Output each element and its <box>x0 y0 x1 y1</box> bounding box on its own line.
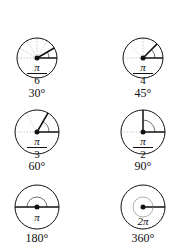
radian-label-pi-4: π 4 <box>133 62 153 85</box>
degree-label-180: 180° <box>17 232 57 244</box>
radian-label-pi-6: π 6 <box>27 62 47 85</box>
radian-label-pi-2: π 2 <box>133 136 153 159</box>
degree-label-360: 360° <box>123 232 163 244</box>
degree-label-45: 45° <box>123 87 163 99</box>
radian-label-2pi: 2π <box>123 215 163 227</box>
degree-label-90: 90° <box>123 160 163 172</box>
radian-label-pi-3: π 3 <box>27 136 47 159</box>
degree-label-30: 30° <box>17 87 57 99</box>
radian-label-pi: π <box>17 211 57 223</box>
degree-label-60: 60° <box>17 160 57 172</box>
